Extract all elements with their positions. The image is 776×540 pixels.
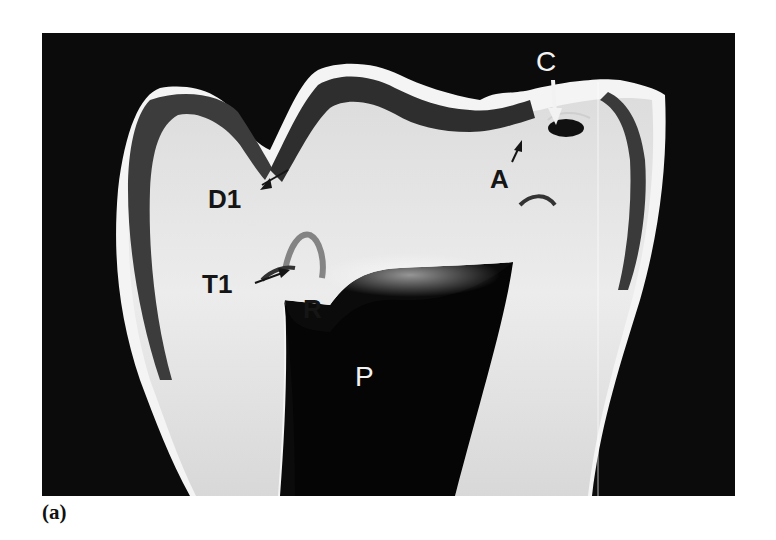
tooth-photo-panel: D1 T1 R A C P bbox=[42, 33, 735, 496]
figure: D1 T1 R A C P (a) bbox=[0, 0, 776, 540]
label-t1: T1 bbox=[202, 271, 232, 297]
label-d1: D1 bbox=[208, 186, 241, 212]
label-c: C bbox=[536, 48, 556, 76]
tooth-section-illustration bbox=[42, 33, 735, 496]
figure-caption: (a) bbox=[42, 502, 67, 523]
label-a: A bbox=[490, 166, 509, 192]
caries-lesion bbox=[548, 119, 584, 137]
label-p: P bbox=[355, 363, 374, 391]
label-r: R bbox=[303, 296, 322, 322]
